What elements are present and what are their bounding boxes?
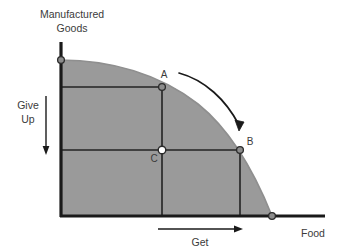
data-point-a-marker: [159, 84, 166, 91]
data-point-b-label: B: [247, 136, 254, 147]
y-axis-title-line2: Goods: [57, 22, 88, 34]
data-point-c-label: C: [150, 153, 157, 164]
get-label: Get: [192, 236, 209, 248]
give-up-label-line1: Give: [17, 99, 39, 111]
data-point-c-marker: [158, 146, 166, 154]
frontier-endpoint-y-marker: [58, 57, 65, 64]
data-point-b-marker: [237, 147, 244, 154]
y-axis-title-line1: Manufactured: [40, 8, 104, 20]
give-up-label-line2: Up: [21, 113, 35, 125]
frontier-endpoint-x-marker: [269, 213, 276, 220]
ppf-chart: A B C Manufactured Goods Food Give Up Ge…: [0, 0, 348, 252]
data-point-a-label: A: [161, 69, 168, 80]
x-axis-title: Food: [301, 227, 325, 239]
